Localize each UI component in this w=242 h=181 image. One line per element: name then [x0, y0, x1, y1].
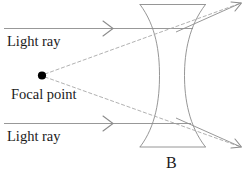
refracted-ray-lower [176, 118, 241, 147]
label-light-ray-top: Light ray [7, 34, 61, 49]
label-focal-point: Focal point [11, 87, 77, 102]
optics-diagram-figure: Light ray Focal point Light ray B [0, 0, 242, 181]
lens-right-surface [185, 5, 206, 148]
label-light-ray-bottom: Light ray [7, 129, 61, 144]
virtual-ray-upper-dashed [45, 3, 241, 74]
focal-point-dot [38, 71, 46, 79]
refracted-exit-rays [176, 2, 242, 148]
virtual-ray-extensions [45, 3, 241, 147]
refracted-ray-upper [176, 3, 241, 32]
concave-lens-shape [140, 5, 206, 148]
lens-left-surface [140, 5, 160, 148]
panel-label-b: B [166, 155, 177, 171]
